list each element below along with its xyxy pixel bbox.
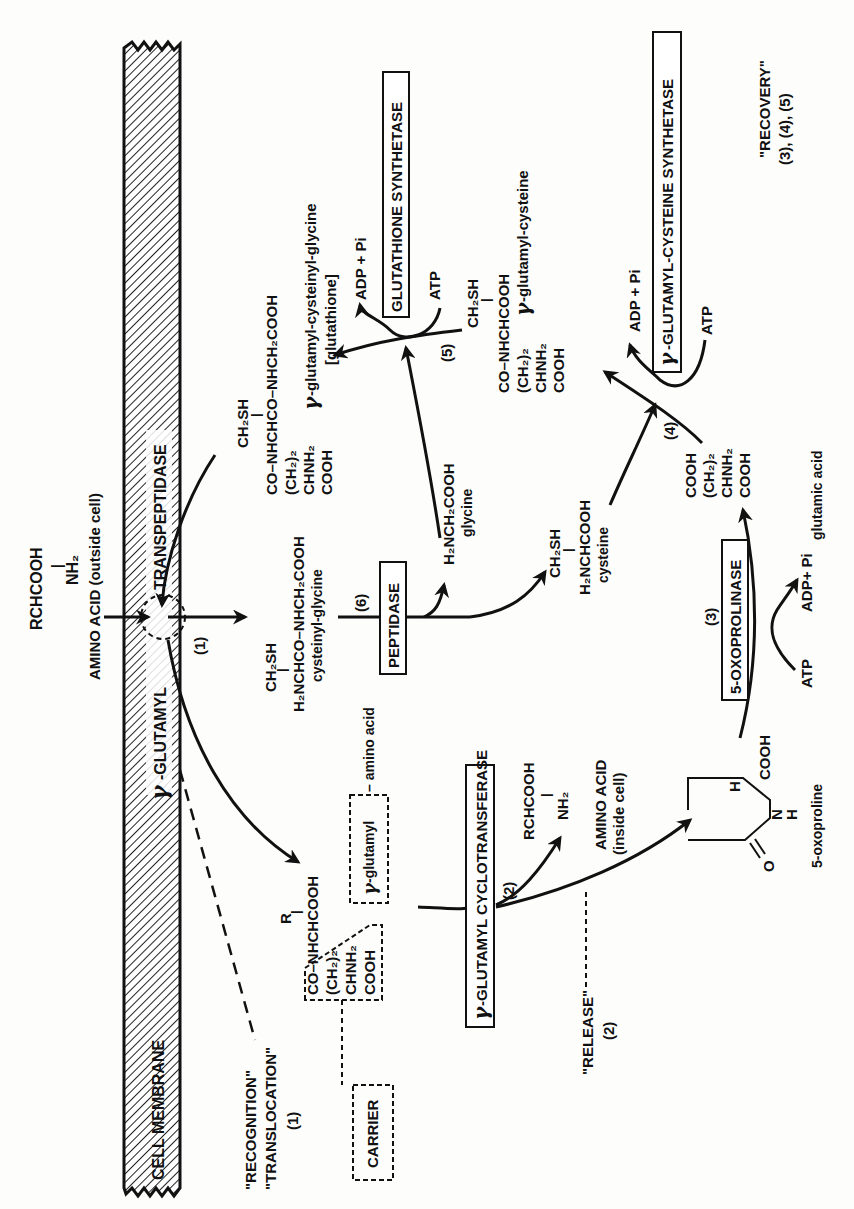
gamma-symbol: γ bbox=[146, 784, 172, 800]
outside-formula-top: RCHCOOH bbox=[28, 547, 45, 630]
cysteine-formula: H₂NCHCOOH bbox=[576, 500, 593, 595]
recovery-steps: (3), (4), (5) bbox=[776, 93, 793, 165]
cysteinyl-glycine: CH₂SH | H₂NCHCO–NHCH₂COOH cysteinyl-glyc… bbox=[262, 536, 325, 712]
diagram-canvas: CELL MEMBRANE γ -GLUTAMYL TRANSPEPTIDASE… bbox=[0, 0, 854, 1209]
glycine-name: glycine bbox=[459, 489, 475, 537]
peptidase-label: PEPTIDASE bbox=[385, 583, 402, 668]
oxoproline: H COOH N H O 5-oxoproline bbox=[688, 735, 825, 872]
glycine-formula: H₂NCH₂COOH bbox=[440, 463, 457, 565]
gaa-bond: | bbox=[288, 910, 303, 914]
atp-label: ATP bbox=[426, 271, 443, 300]
recognition-step: (1) bbox=[284, 1112, 301, 1130]
gamma-symbol: γ bbox=[299, 396, 323, 410]
gaa-line3: CHNH₂ bbox=[342, 945, 359, 995]
step-3-label: (3) bbox=[702, 608, 719, 626]
cyclotransferase: γ -GLUTAMYL CYCLOTRANSFERASE (2) bbox=[418, 750, 690, 1027]
translocation-label: "TRANSLOCATION" bbox=[262, 1047, 279, 1190]
glutathione-product-label: γ -glutamyl-cysteinyl-glycine [glutathio… bbox=[299, 203, 339, 410]
glucys-line3: CHNH₂ bbox=[532, 343, 549, 393]
recognition-annotation: "RECOGNITION" "TRANSLOCATION" (1) bbox=[242, 1047, 301, 1190]
cyclotransferase-path-in bbox=[418, 907, 468, 909]
step-6-label: (6) bbox=[352, 594, 369, 612]
glutamyl-cysteine-synthetase-label: -GLUTAMYL-CYSTEINE SYNTHETASE bbox=[659, 79, 676, 350]
oxoprolinase: 5-OXOPROLINASE (3) ATP ADP+ Pi bbox=[702, 510, 815, 738]
gamma-symbol: γ bbox=[655, 352, 679, 366]
release-annotation: "RELEASE" (2) bbox=[579, 892, 617, 1075]
oxoproline-nh: H bbox=[783, 809, 800, 820]
cysteine-bond: | bbox=[560, 548, 575, 552]
glutathione-name: -glutamyl-cysteinyl-glycine bbox=[302, 203, 319, 396]
glucys-line4: COOH bbox=[550, 348, 567, 393]
glutathione-structure: CH₂SH | CO–NHCHCO–NHCH₂COOH (CH₂)₂ CHNH₂… bbox=[234, 295, 335, 495]
adp-pi-label: ADP + Pi bbox=[352, 237, 369, 300]
recovery-label: "RECOVERY" bbox=[756, 60, 773, 158]
gsh-line1: CO–NHCHCO–NHCH₂COOH bbox=[263, 295, 280, 495]
amino-acid-inside: RCHCOOH | NH₂ AMINO ACID (inside cell) bbox=[520, 760, 627, 855]
gsh-line2: (CH₂)₂ bbox=[282, 450, 299, 495]
oxoproline-o: O bbox=[760, 860, 777, 872]
gaa-line1: CO–NHCHCOOH bbox=[304, 876, 321, 995]
cysgly-bond: | bbox=[274, 668, 289, 672]
arrow-glycine-to-synthetase bbox=[406, 348, 440, 538]
glu-line3: CHNH₂ bbox=[718, 448, 735, 498]
oxoproline-name: 5-oxoproline bbox=[809, 784, 825, 868]
glutamic-acid-name: glutamic acid bbox=[809, 451, 825, 540]
carrier: CARRIER bbox=[353, 1085, 393, 1180]
glutamyl-cysteine-synthetase: γ -GLUTAMYL-CYSTEINE SYNTHETASE ADP + Pi… bbox=[605, 32, 715, 505]
atp-label: ATP bbox=[698, 306, 715, 335]
glycine: H₂NCH₂COOH glycine bbox=[440, 463, 475, 565]
gamma-glutamyl-cycle-diagram: CELL MEMBRANE γ -GLUTAMYL TRANSPEPTIDASE… bbox=[0, 0, 854, 1209]
carrier-label: CARRIER bbox=[364, 1099, 381, 1168]
glucys-bond: | bbox=[478, 298, 493, 302]
glucys-name: -glutamyl-cysteine bbox=[514, 170, 531, 302]
glucys-line1: CO–NHCHCOOH bbox=[495, 274, 512, 393]
atp-to-adp-arrow bbox=[772, 580, 797, 670]
gaa-name-rest: – amino acid bbox=[361, 707, 377, 792]
peptidase: PEPTIDASE (6) bbox=[338, 562, 545, 674]
cysgly-formula: H₂NCHCO–NHCH₂COOH bbox=[290, 536, 307, 712]
outside-formula-bottom: NH₂ bbox=[64, 555, 81, 585]
cysteine-name: cysteine bbox=[595, 527, 611, 583]
glutathione-synthetase-label: GLUTATHIONE SYNTHETASE bbox=[388, 102, 405, 312]
cysgly-name: cysteinyl-glycine bbox=[309, 569, 325, 682]
gsh-line3: CHNH₂ bbox=[300, 445, 317, 495]
oxoproline-cooh: COOH bbox=[756, 735, 773, 780]
glu-line2: (CH₂)₂ bbox=[700, 453, 717, 498]
adp-pi-label: ADP+ Pi bbox=[798, 553, 815, 612]
cyclotransferase-label: -GLUTAMYL CYCLOTRANSFERASE bbox=[473, 750, 490, 1006]
release-label: "RELEASE" bbox=[579, 990, 596, 1075]
glutamic-acid: COOH (CH₂)₂ CHNH₂ COOH glutamic acid bbox=[682, 448, 825, 540]
arrow-to-cysteine bbox=[470, 572, 545, 617]
atp-label: ATP bbox=[798, 659, 815, 688]
cysteine-sh: CH₂SH bbox=[546, 529, 563, 578]
cell-membrane-label: CELL MEMBRANE bbox=[150, 1040, 167, 1180]
glucys-sh: CH₂SH bbox=[464, 279, 481, 328]
gamma-glutamyl-cysteine: CH₂SH | CO–NHCHCOOH (CH₂)₂ CHNH₂ COOH γ … bbox=[464, 170, 567, 393]
arrow-to-glycine bbox=[424, 585, 444, 617]
gaa-line4: COOH bbox=[361, 950, 378, 995]
glu-line4: COOH bbox=[736, 453, 753, 498]
transpeptidase-label-part1: -GLUTAMYL bbox=[152, 687, 169, 780]
gsh-sh: CH₂SH bbox=[234, 399, 251, 448]
gaa-name-boxed: -glutamyl bbox=[361, 821, 377, 883]
inside-label: AMINO ACID bbox=[592, 760, 609, 850]
glu-line1: COOH bbox=[682, 453, 699, 498]
recognition-label: "RECOGNITION" bbox=[242, 1070, 259, 1190]
release-step: (2) bbox=[600, 1022, 617, 1040]
adp-pi-label: ADP + Pi bbox=[626, 269, 643, 332]
inside-bond: | bbox=[538, 793, 553, 797]
oxoproline-h: H bbox=[726, 781, 743, 792]
glutathione-bracket: [glutathione] bbox=[322, 274, 339, 365]
cysteine: CH₂SH | H₂NCHCOOH cysteine bbox=[546, 500, 611, 595]
inside-formula-bottom: NH₂ bbox=[554, 792, 571, 820]
cysgly-sh: CH₂SH bbox=[262, 643, 279, 692]
arrow-cysteine-to-synthetase bbox=[610, 405, 655, 505]
amino-acid-outside: RCHCOOH | NH₂ AMINO ACID (outside cell) bbox=[28, 493, 103, 680]
oxoprolinase-label: 5-OXOPROLINASE bbox=[727, 560, 744, 694]
glucys-line2: (CH₂)₂ bbox=[514, 348, 531, 393]
outside-bond: | bbox=[49, 564, 65, 568]
gaa-line2: (CH₂)₂ bbox=[323, 950, 340, 995]
gamma-symbol: γ bbox=[511, 302, 535, 316]
inside-label2: (inside cell) bbox=[610, 772, 627, 855]
step-4-label: (4) bbox=[661, 422, 678, 440]
